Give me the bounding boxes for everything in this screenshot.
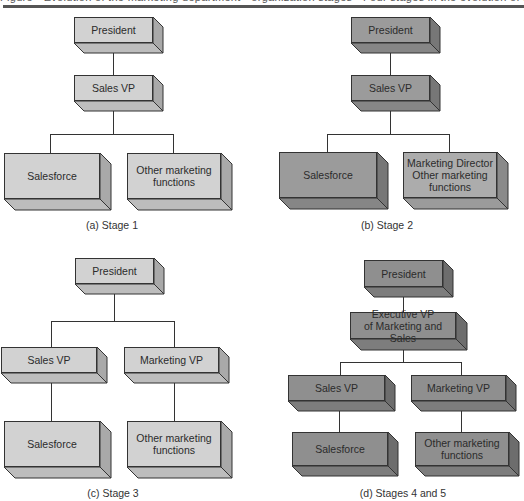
org-box-other-marketing: Other marketingfunctions bbox=[127, 421, 232, 478]
connector bbox=[340, 362, 341, 375]
org-box-salesforce: Salesforce bbox=[279, 152, 388, 209]
connector bbox=[51, 321, 52, 347]
box-label: President bbox=[75, 258, 154, 284]
box-label: Other marketingfunctions bbox=[415, 432, 509, 466]
org-box-sales-vp: Sales VP bbox=[351, 75, 440, 111]
org-box-marketing-director: Marketing DirectorOther marketingfunctio… bbox=[403, 152, 508, 209]
org-box-president: President bbox=[364, 260, 453, 297]
box-label: Salesforce bbox=[4, 153, 100, 199]
connector bbox=[173, 134, 174, 153]
org-box-sales-vp: Sales VP bbox=[74, 75, 163, 111]
org-box-marketing-vp: Marketing VP bbox=[124, 347, 229, 383]
org-box-other-marketing: Other marketingfunctions bbox=[127, 153, 232, 210]
org-box-sales-vp: Sales VP bbox=[1, 347, 107, 383]
box-label: Sales VP bbox=[288, 375, 385, 401]
caption-stages-4-and-5: (d) Stages 4 and 5 bbox=[360, 487, 446, 499]
connector bbox=[327, 134, 450, 135]
box-label: Sales VP bbox=[1, 347, 97, 373]
connector bbox=[340, 362, 462, 363]
box-label: Marketing VP bbox=[124, 347, 219, 373]
header-rule bbox=[3, 5, 524, 8]
org-box-salesforce: Salesforce bbox=[4, 153, 111, 210]
box-label: Salesforce bbox=[292, 432, 388, 466]
connector bbox=[327, 134, 328, 152]
box-label: Sales VP bbox=[74, 75, 153, 101]
connector bbox=[449, 134, 450, 152]
box-label: Marketing DirectorOther marketingfunctio… bbox=[403, 152, 497, 198]
org-box-salesforce: Salesforce bbox=[292, 432, 398, 476]
box-label: President bbox=[74, 17, 153, 43]
connector bbox=[461, 362, 462, 375]
box-label: President bbox=[351, 17, 430, 43]
connector bbox=[50, 134, 51, 153]
caption-stage-1: (a) Stage 1 bbox=[86, 219, 138, 231]
box-label: Sales VP bbox=[351, 75, 430, 101]
box-label: Other marketingfunctions bbox=[127, 153, 221, 199]
org-box-president: President bbox=[74, 17, 163, 53]
box-label: President bbox=[364, 260, 443, 287]
org-box-president: President bbox=[351, 17, 440, 53]
org-box-other-marketing: Other marketingfunctions bbox=[415, 432, 519, 476]
caption-stage-2: (b) Stage 2 bbox=[361, 219, 413, 231]
org-box-marketing-vp: Marketing VP bbox=[411, 375, 516, 411]
box-label: Other marketingfunctions bbox=[127, 421, 221, 467]
org-box-president: President bbox=[75, 258, 164, 294]
box-label: Marketing VP bbox=[411, 375, 506, 401]
connector bbox=[51, 321, 175, 322]
box-label: Salesforce bbox=[279, 152, 377, 198]
box-label: Executive VPof Marketing and Sales bbox=[350, 312, 456, 339]
caption-stage-3: (c) Stage 3 bbox=[87, 487, 138, 499]
connector bbox=[50, 134, 174, 135]
org-box-sales-vp: Sales VP bbox=[288, 375, 395, 411]
org-box-salesforce: Salesforce bbox=[4, 421, 111, 478]
org-box-executive-vp: Executive VPof Marketing and Sales bbox=[350, 312, 467, 350]
box-label: Salesforce bbox=[4, 421, 100, 467]
clipped-figure-title: Figure · Evolution of the marketing depa… bbox=[0, 0, 524, 3]
connector bbox=[174, 321, 175, 347]
